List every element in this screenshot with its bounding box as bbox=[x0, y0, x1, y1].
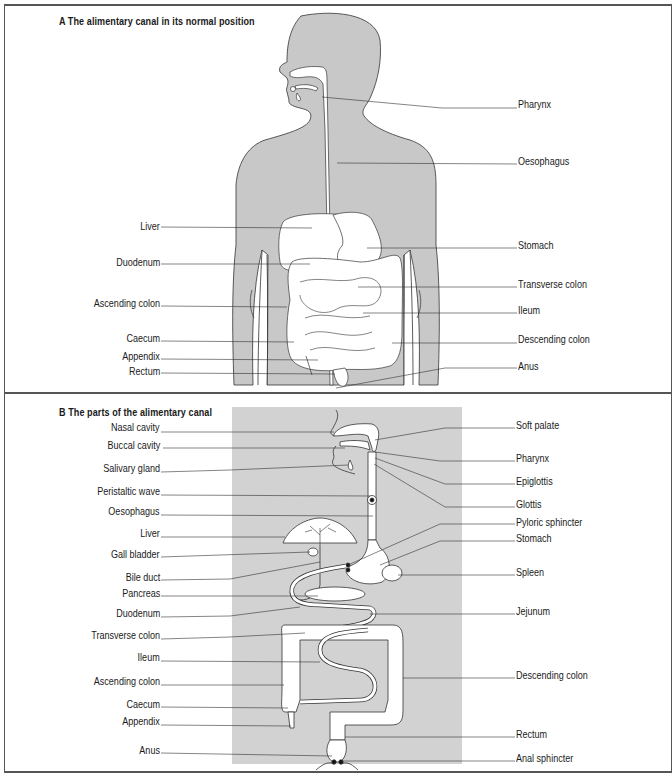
label-b-caecum: Caecum bbox=[126, 698, 160, 710]
label-a-duodenum: Duodenum bbox=[116, 256, 160, 268]
label-b-anal-sphincter: Anal sphincter bbox=[516, 752, 573, 764]
label-b-epiglottis: Epiglottis bbox=[516, 475, 553, 487]
label-b-ascending-colon: Ascending colon bbox=[94, 675, 160, 687]
label-b-soft-palate: Soft palate bbox=[516, 419, 559, 431]
label-b-appendix: Appendix bbox=[122, 715, 160, 727]
label-b-spleen: Spleen bbox=[516, 566, 544, 578]
label-a-oesophagus: Oesophagus bbox=[518, 155, 569, 167]
label-b-anus: Anus bbox=[139, 744, 160, 756]
label-b-jejunum: Jejunum bbox=[516, 605, 550, 617]
label-b-transverse-colon: Transverse colon bbox=[91, 629, 160, 641]
label-b-bile-duct: Bile duct bbox=[125, 571, 160, 583]
label-a-appendix: Appendix bbox=[122, 350, 160, 362]
label-b-buccal-cavity: Buccal cavity bbox=[107, 439, 160, 451]
label-a-transverse-colon: Transverse colon bbox=[518, 278, 587, 290]
label-a-stomach: Stomach bbox=[518, 239, 554, 251]
label-a-pharynx: Pharynx bbox=[518, 98, 551, 110]
label-b-oesophagus: Oesophagus bbox=[109, 505, 160, 517]
label-a-ascending-colon: Ascending colon bbox=[94, 297, 160, 309]
label-b-pancreas: Pancreas bbox=[122, 587, 160, 599]
label-a-anus: Anus bbox=[518, 360, 539, 372]
label-b-salivary-gland: Salivary gland bbox=[103, 462, 160, 474]
label-b-peristaltic-wave: Peristaltic wave bbox=[97, 485, 160, 497]
label-a-rectum: Rectum bbox=[129, 365, 160, 377]
label-b-pharynx: Pharynx bbox=[516, 452, 549, 464]
label-b-nasal-cavity: Nasal cavity bbox=[111, 421, 160, 433]
label-b-descending-colon: Descending colon bbox=[516, 669, 588, 681]
label-b-duodenum: Duodenum bbox=[116, 607, 160, 619]
label-a-caecum: Caecum bbox=[126, 332, 160, 344]
label-b-ileum: Ileum bbox=[138, 651, 160, 663]
label-a-ileum: Ileum bbox=[518, 304, 540, 316]
label-b-glottis: Glottis bbox=[516, 498, 542, 510]
label-b-gall-bladder: Gall bladder bbox=[111, 548, 160, 560]
label-b-liver: Liver bbox=[140, 527, 160, 539]
panel-b-backdrop bbox=[232, 407, 462, 764]
label-b-rectum: Rectum bbox=[516, 728, 547, 740]
label-a-liver: Liver bbox=[140, 220, 160, 232]
label-b-pyloric-sphincter: Pyloric sphincter bbox=[516, 516, 582, 528]
label-b-stomach: Stomach bbox=[516, 532, 552, 544]
panel-b-title: B The parts of the alimentary canal bbox=[59, 406, 212, 418]
label-a-descending-colon: Descending colon bbox=[518, 333, 590, 345]
panel-a-title: A The alimentary canal in its normal pos… bbox=[59, 15, 255, 27]
